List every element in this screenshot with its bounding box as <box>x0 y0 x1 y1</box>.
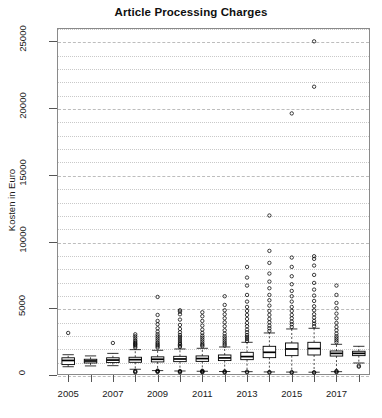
x-tick <box>292 375 293 382</box>
x-tick <box>135 375 136 382</box>
gridline-minor <box>58 323 369 324</box>
y-tick <box>49 41 57 42</box>
gridline-minor <box>58 256 369 257</box>
gridline-major <box>58 376 369 377</box>
gridline-minor <box>58 283 369 284</box>
y-tick-label-text: 0 <box>16 370 27 375</box>
x-tick <box>180 375 181 382</box>
gridline-major <box>58 309 369 310</box>
x-tick-label: 2017 <box>326 388 347 399</box>
x-tick <box>158 375 159 382</box>
y-tick-label: 15000 <box>2 167 42 178</box>
gridline-minor <box>58 216 369 217</box>
x-tick <box>225 375 226 382</box>
gridline-minor <box>58 69 369 70</box>
chart-root: Article Processing Charges Kosten in Eur… <box>0 0 382 418</box>
x-tick <box>247 375 248 382</box>
y-tick <box>49 175 57 176</box>
gridline-minor <box>58 56 369 57</box>
gridline-minor <box>58 29 369 30</box>
y-tick <box>49 308 57 309</box>
y-tick-label: 0 <box>2 367 42 378</box>
x-tick-label: 2015 <box>281 388 302 399</box>
gridlines <box>58 29 369 374</box>
y-tick <box>49 108 57 109</box>
y-tick-label-text: 5000 <box>16 295 27 316</box>
x-tick-label: 2013 <box>236 388 257 399</box>
gridline-minor <box>58 149 369 150</box>
y-tick-label: 10000 <box>2 234 42 245</box>
gridline-major <box>58 109 369 110</box>
gridline-minor <box>58 296 369 297</box>
y-tick <box>49 375 57 376</box>
gridline-minor <box>58 136 369 137</box>
y-tick-label: 25000 <box>2 33 42 44</box>
gridline-major <box>58 243 369 244</box>
gridline-major <box>58 176 369 177</box>
x-tick-label: 2011 <box>192 388 212 399</box>
gridline-minor <box>58 82 369 83</box>
y-tick-label: 20000 <box>2 100 42 111</box>
gridline-minor <box>58 122 369 123</box>
gridline-minor <box>58 269 369 270</box>
y-tick-label-text: 15000 <box>16 159 27 185</box>
x-tick <box>113 375 114 382</box>
x-tick <box>336 375 337 382</box>
gridline-minor <box>58 336 369 337</box>
y-tick <box>49 242 57 243</box>
x-tick <box>314 375 315 382</box>
x-tick-label: 2007 <box>102 388 123 399</box>
x-tick <box>91 375 92 382</box>
y-tick-label-text: 10000 <box>16 226 27 252</box>
gridline-minor <box>58 162 369 163</box>
gridline-major <box>58 42 369 43</box>
gridline-minor <box>58 349 369 350</box>
x-tick-label: 2009 <box>147 388 168 399</box>
gridline-minor <box>58 363 369 364</box>
gridline-minor <box>58 203 369 204</box>
gridline-minor <box>58 189 369 190</box>
y-tick-label: 5000 <box>2 300 42 311</box>
y-tick-label-text: 20000 <box>16 92 27 118</box>
gridline-minor <box>58 96 369 97</box>
x-tick <box>68 375 69 382</box>
x-tick <box>269 375 270 382</box>
x-tick <box>202 375 203 382</box>
plot-area: 0500010000150002000025000 20052007200920… <box>0 0 382 418</box>
gridline-minor <box>58 229 369 230</box>
x-tick <box>359 375 360 382</box>
x-tick-label: 2005 <box>58 388 79 399</box>
y-tick-label-text: 25000 <box>16 26 27 52</box>
plot-frame <box>57 28 370 375</box>
